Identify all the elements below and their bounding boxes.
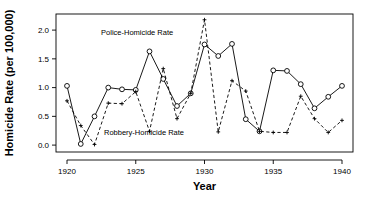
data-point-marker [216, 54, 221, 59]
data-point-marker [299, 94, 303, 98]
x-tick-label: 1940 [333, 167, 351, 176]
data-point-marker [271, 131, 275, 135]
x-tick-label: 1935 [264, 167, 282, 176]
data-point-marker [106, 85, 111, 90]
x-tick-label: 1920 [58, 167, 76, 176]
data-point-marker [202, 42, 207, 47]
data-point-marker [244, 89, 248, 93]
series-annotations: Police-Homicide RateRobbery-Homicide Rat… [101, 28, 184, 137]
chart-figure: 0.00.51.01.52.0 19201925193019351940 Pol… [0, 0, 368, 198]
data-point-marker [175, 104, 180, 109]
data-point-marker [326, 94, 331, 99]
data-point-marker [93, 143, 97, 147]
data-point-marker [203, 18, 207, 22]
x-axis-title: Year [193, 180, 217, 192]
data-point-marker [243, 117, 248, 122]
data-point-marker [147, 49, 152, 54]
x-tick-label: 1930 [196, 167, 214, 176]
data-point-marker [175, 117, 179, 121]
series-label-2: Robbery-Homicide Rate [104, 128, 184, 137]
data-point-marker [78, 142, 83, 147]
data-point-marker [65, 99, 69, 103]
y-tick-label: 1.0 [38, 83, 50, 92]
data-point-marker [230, 42, 235, 47]
y-tick-label: 0.0 [38, 141, 50, 150]
data-point-marker [340, 83, 345, 88]
x-axis-ticks [67, 160, 342, 164]
y-tick-label: 0.5 [38, 112, 50, 121]
y-tick-label: 2.0 [38, 26, 50, 35]
homicide-rate-line-chart: 0.00.51.01.52.0 19201925193019351940 Pol… [0, 0, 368, 198]
data-point-marker [92, 114, 97, 119]
y-axis-ticks [52, 30, 56, 145]
data-point-marker [285, 69, 290, 74]
data-point-marker [106, 101, 110, 105]
x-axis-tick-labels: 19201925193019351940 [58, 167, 351, 176]
data-point-marker [298, 82, 303, 87]
data-point-marker [65, 83, 70, 88]
data-point-marker [271, 68, 276, 73]
data-point-marker [340, 118, 344, 122]
x-tick-label: 1925 [127, 167, 145, 176]
data-point-marker [285, 131, 289, 135]
y-axis-title: Homicide Rate (per 100,000) [3, 9, 15, 156]
data-point-marker [312, 106, 317, 111]
data-point-marker [120, 87, 125, 92]
y-tick-label: 1.5 [38, 55, 50, 64]
data-point-marker [120, 102, 124, 106]
data-point-marker [161, 67, 165, 71]
series-label-1: Police-Homicide Rate [101, 28, 173, 37]
data-point-marker [216, 130, 220, 134]
y-axis-tick-labels: 0.00.51.01.52.0 [38, 26, 50, 150]
